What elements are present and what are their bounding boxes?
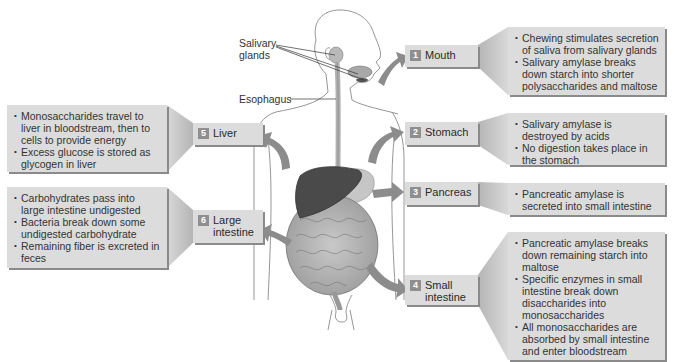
info-point: Pancreatic amylase is secreted into smal… bbox=[515, 188, 659, 212]
stage-organ-name: Liver bbox=[213, 127, 237, 139]
connector-liver bbox=[167, 105, 193, 172]
connector-mouth bbox=[478, 27, 508, 95]
esophagus-label: Esophagus bbox=[239, 93, 292, 105]
salivary-glands-label: Salivary glands bbox=[239, 37, 283, 61]
info-box-large-intestine: Carbohydrates pass into large intestine … bbox=[7, 187, 167, 268]
info-box-pancreas: Pancreatic amylase is secreted into smal… bbox=[508, 183, 665, 215]
info-box-stomach: Salivary amylase is destroyed by acids N… bbox=[508, 113, 665, 165]
stage-label-liver: 5 Liver bbox=[193, 123, 263, 145]
stage-number-badge: 1 bbox=[410, 50, 421, 61]
stage-number-badge: 3 bbox=[410, 187, 421, 198]
info-point: Remaining fiber is excreted in feces bbox=[14, 240, 161, 264]
stage-number-badge: 6 bbox=[198, 215, 209, 226]
stage-organ-name: Large intestine bbox=[213, 214, 258, 238]
stage-label-large-intestine: 6 Large intestine bbox=[193, 210, 263, 243]
info-box-mouth: Chewing stimulates secretion of saliva f… bbox=[508, 27, 665, 95]
stage-number-badge: 2 bbox=[410, 127, 421, 138]
info-point: Carbohydrates pass into large intestine … bbox=[14, 192, 161, 216]
info-point: No digestion takes place in the stomach bbox=[515, 142, 659, 166]
info-point: Monosaccharides travel to liver in blood… bbox=[14, 110, 161, 146]
info-point: Specific enzymes in small intestine brea… bbox=[515, 273, 659, 321]
info-point: All monosaccharides are absorbed by smal… bbox=[515, 321, 659, 357]
info-point: Salivary amylase breaks down starch into… bbox=[515, 56, 659, 92]
connector-pancreas bbox=[478, 182, 508, 215]
stage-label-small-intestine: 4 Small intestine bbox=[405, 275, 478, 305]
info-box-liver: Monosaccharides travel to liver in blood… bbox=[7, 105, 167, 172]
info-point: Excess glucose is stored as glycogen in … bbox=[14, 146, 161, 170]
stage-organ-name: Mouth bbox=[425, 49, 456, 61]
stage-organ-name: Small intestine bbox=[425, 279, 473, 303]
stage-label-stomach: 2 Stomach bbox=[405, 122, 478, 145]
info-point: Pancreatic amylase breaks down remaining… bbox=[515, 237, 659, 273]
connector-large-intestine bbox=[167, 187, 193, 268]
info-point: Salivary amylase is destroyed by acids bbox=[515, 118, 659, 142]
info-box-small-intestine: Pancreatic amylase breaks down remaining… bbox=[508, 232, 665, 360]
stage-organ-name: Stomach bbox=[425, 126, 468, 138]
connector-stomach bbox=[478, 113, 508, 165]
stage-number-badge: 5 bbox=[198, 128, 209, 139]
stage-label-mouth: 1 Mouth bbox=[405, 45, 478, 67]
stage-number-badge: 4 bbox=[410, 280, 421, 291]
stage-organ-name: Pancreas bbox=[425, 186, 471, 198]
connector-small-intestine bbox=[478, 232, 508, 360]
stage-label-pancreas: 3 Pancreas bbox=[405, 182, 478, 205]
info-point: Bacteria break down some undigested carb… bbox=[14, 216, 161, 240]
info-point: Chewing stimulates secretion of saliva f… bbox=[515, 32, 659, 56]
